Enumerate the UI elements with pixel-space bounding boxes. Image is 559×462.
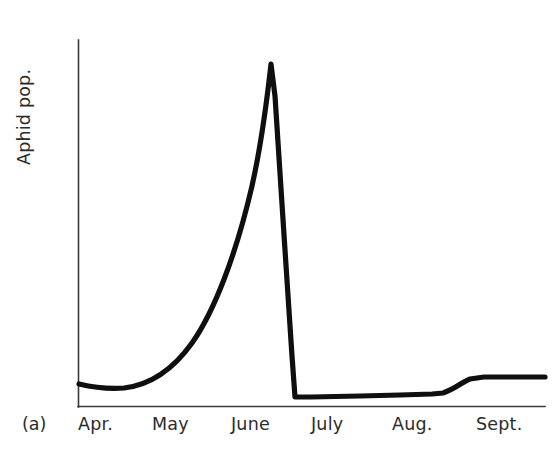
aphid-population-figure: Aphid pop. (a) Apr. May June July Aug. S… <box>0 0 559 462</box>
x-tick-label-apr: Apr. <box>78 414 113 434</box>
x-tick-label-sept: Sept. <box>476 414 522 434</box>
x-tick-label-june: June <box>231 414 270 434</box>
x-tick-label-aug: Aug. <box>392 414 433 434</box>
aphid-population-curve <box>79 64 545 397</box>
chart-plot-area <box>0 0 559 462</box>
x-tick-label-may: May <box>152 414 189 434</box>
panel-label: (a) <box>22 414 46 434</box>
x-tick-label-july: July <box>311 414 343 434</box>
y-axis-label: Aphid pop. <box>14 25 34 165</box>
